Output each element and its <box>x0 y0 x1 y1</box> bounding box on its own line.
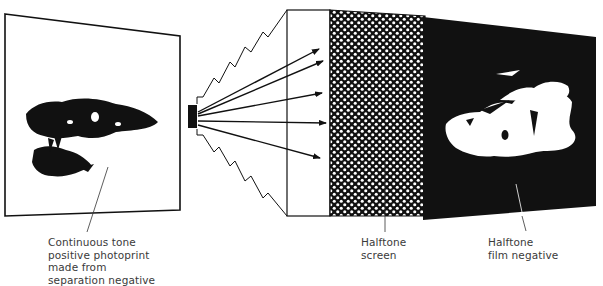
label-halftone-screen: Halftone screen <box>361 236 406 261</box>
lens-board <box>287 10 330 216</box>
bellows-top <box>197 10 287 104</box>
label-negative-line: film negative <box>488 249 558 262</box>
label-negative-line: Halftone <box>488 236 558 249</box>
photoprint <box>5 14 180 232</box>
bellows-bottom <box>197 129 287 216</box>
label-screen-line: screen <box>361 249 406 262</box>
label-photoprint: Continuous tone positive photoprint made… <box>48 236 155 286</box>
camera <box>188 10 287 216</box>
label-photoprint-line: made from <box>48 261 155 274</box>
lens-icon <box>188 105 197 128</box>
label-screen-line: Halftone <box>361 236 406 249</box>
label-photoprint-line: Continuous tone <box>48 236 155 249</box>
label-film-negative: Halftone film negative <box>488 236 558 261</box>
film-negative <box>423 17 596 231</box>
label-photoprint-line: positive photoprint <box>48 249 155 262</box>
label-photoprint-line: separation negative <box>48 274 155 286</box>
halftone-screen <box>330 10 425 232</box>
